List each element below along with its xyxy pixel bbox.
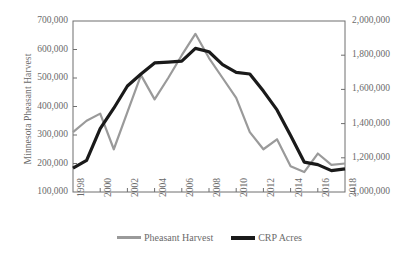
y-tick-label-right: 1,800,000: [352, 50, 408, 60]
legend-label-pheasant-harvest: Pheasant Harvest: [144, 232, 213, 243]
y-tick-label-left: 100,000: [16, 187, 68, 197]
y-tick-label-right: 1,000,000: [352, 187, 408, 197]
y-tick-label-left: 400,000: [16, 102, 68, 112]
y-tick-label-left: 200,000: [16, 159, 68, 169]
legend-label-crp-acres: CRP Acres: [258, 232, 302, 243]
figure-caption: [24, 252, 396, 260]
x-tick-label: 2010: [240, 178, 250, 197]
x-tick-label: 2008: [213, 178, 223, 197]
x-tick-label: 2016: [322, 178, 332, 197]
legend-swatch-crp-acres: [231, 236, 255, 240]
y-tick-label-left: 700,000: [16, 16, 68, 26]
y-tick-label-right: 2,000,000: [352, 16, 408, 26]
x-tick-label: 2006: [186, 178, 196, 197]
x-tick-label: 1998: [77, 178, 87, 197]
x-tick-label: 2000: [104, 178, 114, 197]
x-tick-label: 2012: [267, 178, 277, 197]
y-tick-label-right: 1,400,000: [352, 119, 408, 129]
x-tick-label: 2002: [131, 178, 141, 197]
legend-item-crp-acres: CRP Acres: [231, 232, 302, 243]
y-tick-label-left: 600,000: [16, 45, 68, 55]
series-line-pheasant-harvest: [73, 34, 345, 172]
series-line-crp-acres: [73, 48, 345, 170]
x-tick-label: 2014: [295, 178, 305, 197]
legend-item-pheasant-harvest: Pheasant Harvest: [117, 232, 213, 243]
y-tick-label-left: 500,000: [16, 73, 68, 83]
y-tick-label-left: 300,000: [16, 130, 68, 140]
legend-swatch-pheasant-harvest: [117, 236, 141, 239]
y-tick-label-right: 1,200,000: [352, 153, 408, 163]
chart-figure: Minnesota Pheasant Harvest CRP Acres 700…: [0, 0, 419, 260]
x-tick-label: 2004: [159, 178, 169, 197]
chart-legend: Pheasant Harvest CRP Acres: [0, 232, 419, 243]
y-tick-label-right: 1,600,000: [352, 84, 408, 94]
data-series-group: [73, 34, 345, 172]
x-tick-label: 2018: [349, 178, 359, 197]
